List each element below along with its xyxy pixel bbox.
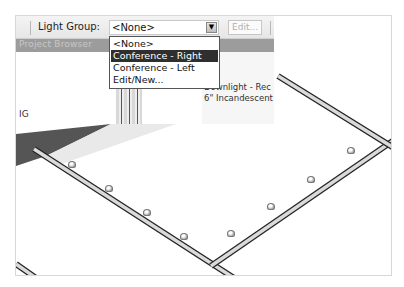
light-fixture[interactable] [68,161,76,168]
bottom-left-beam [16,264,36,275]
light-fixture[interactable] [180,233,188,240]
dropdown-option-edit-new[interactable]: Edit/New... [111,74,218,86]
right-beam [211,140,391,266]
toolbar-separator [30,21,31,35]
toolbar-separator [270,21,271,35]
upper-right-beam [278,76,391,148]
application-window: Downlight - Rec 6" Incandescent IG Light… [15,15,392,276]
chevron-down-icon[interactable]: ▼ [206,22,217,33]
light-group-value: <None> [112,22,155,33]
left-beam [34,149,234,275]
dropdown-option-conference-left[interactable]: Conference - Left [111,62,218,74]
properties-type-text: 6" Incandescent [204,93,273,103]
light-group-label: Light Group: [38,21,100,32]
light-fixture[interactable] [227,230,235,237]
light-fixture[interactable] [347,147,355,154]
light-fixture[interactable] [307,176,315,183]
light-fixture[interactable] [143,209,151,216]
light-fixture[interactable] [267,203,275,210]
dropdown-option-none[interactable]: <None> [111,38,218,50]
dropdown-option-conference-right[interactable]: Conference - Right [111,50,218,62]
project-browser-title: Project Browser [19,39,92,49]
view-label-fragment: IG [19,109,29,119]
light-group-select[interactable]: <None> ▼ [109,20,219,35]
light-group-dropdown: <None> Conference - Right Conference - L… [109,36,220,89]
light-fixture[interactable] [105,185,113,192]
edit-button[interactable]: Edit... [228,20,262,35]
